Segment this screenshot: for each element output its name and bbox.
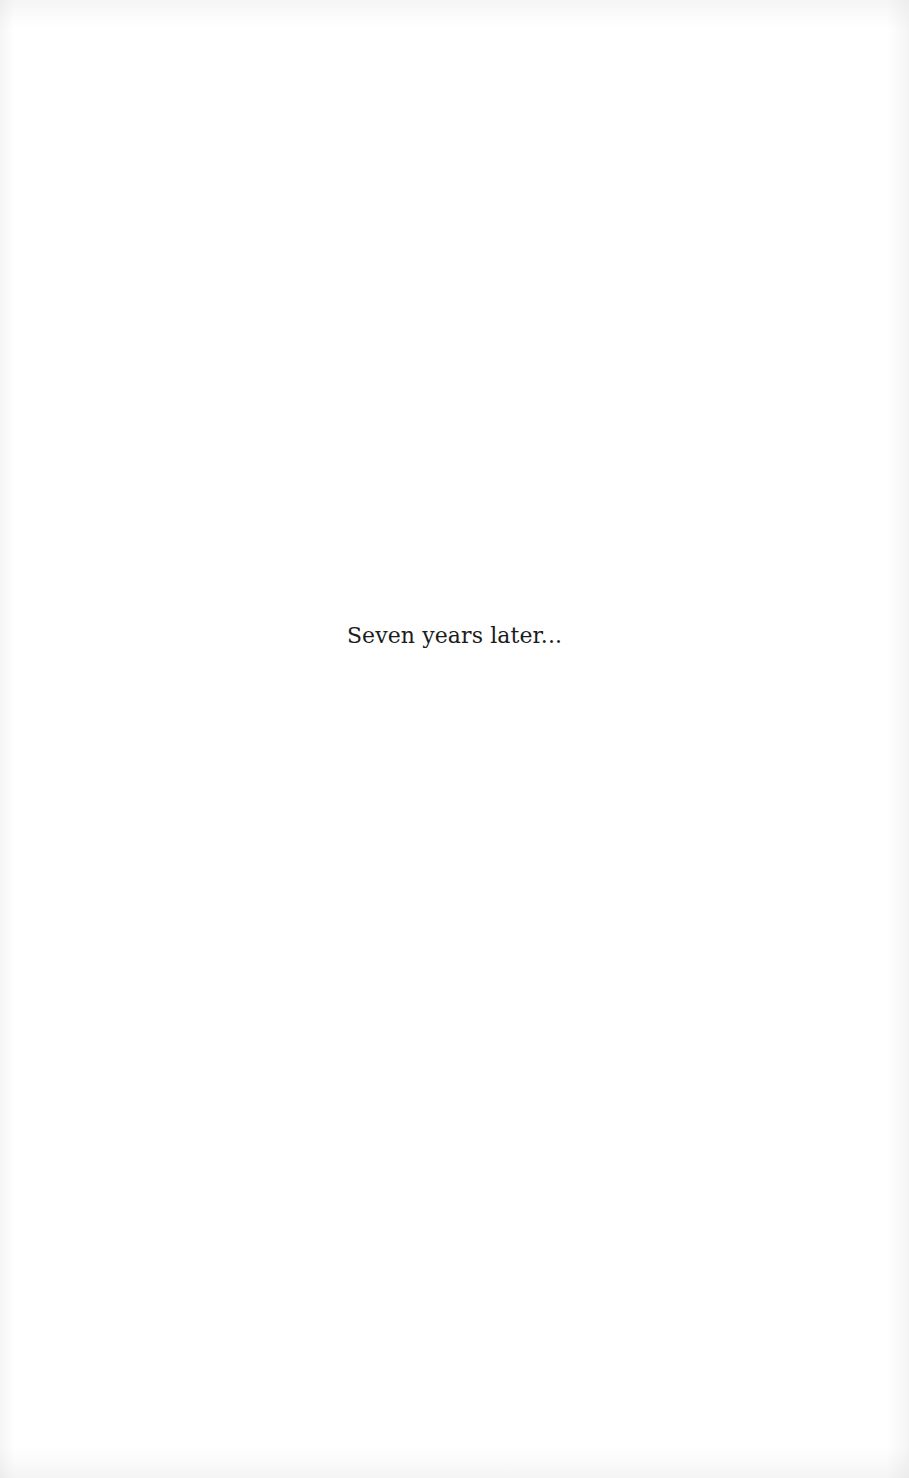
scan-shading-bottom (0, 1448, 909, 1478)
time-skip-text: Seven years later... (0, 618, 909, 654)
book-page: Seven years later... (0, 0, 909, 1478)
scan-shading-top (0, 0, 909, 28)
scan-shading-left (0, 0, 14, 1478)
scan-shading-right (887, 0, 909, 1478)
